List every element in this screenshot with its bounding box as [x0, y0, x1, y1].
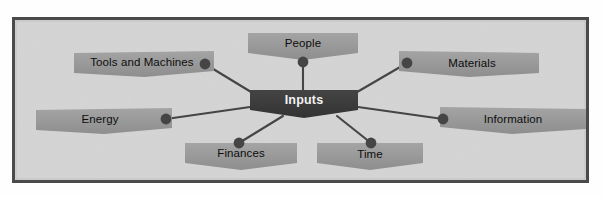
- node-label-finances: Finances: [217, 147, 265, 159]
- connector-dot-materials: [402, 58, 413, 69]
- connector-dot-time: [366, 138, 377, 149]
- node-label-people: People: [285, 37, 321, 49]
- node-label-energy: Energy: [81, 113, 118, 125]
- node-label-information: Information: [484, 113, 543, 125]
- diagram-canvas: Tools and Machines People Materials Ener…: [0, 0, 605, 197]
- connector-dot-tools-and-machines: [200, 59, 211, 70]
- node-label-materials: Materials: [448, 57, 496, 69]
- node-label-tools-and-machines: Tools and Machines: [90, 56, 194, 68]
- node-label-time: Time: [357, 148, 383, 160]
- connector-dot-people: [298, 57, 309, 68]
- connector-dot-energy: [161, 114, 172, 125]
- connector-dot-finances: [234, 138, 245, 149]
- node-label-inputs: Inputs: [285, 93, 324, 107]
- mind-map-diagram: Tools and Machines People Materials Ener…: [0, 0, 605, 197]
- connector-dot-information: [438, 114, 449, 125]
